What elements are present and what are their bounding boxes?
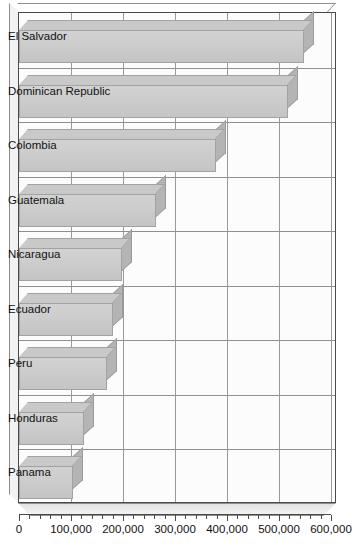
bar-side-face	[288, 66, 298, 108]
x-axis-tick-minor	[92, 515, 93, 519]
x-axis-tick-minor	[206, 515, 207, 519]
x-axis: 0100,000200,000300,000400,000500,000600,…	[0, 514, 357, 546]
x-axis-tick-minor	[40, 515, 41, 519]
x-axis-tick-major	[331, 515, 332, 521]
x-axis-tick-minor	[289, 515, 290, 519]
x-axis-tick-major	[19, 515, 20, 521]
bar-category-label: Honduras	[8, 402, 58, 435]
bar-side-face	[107, 338, 117, 380]
x-axis-tick-minor	[258, 515, 259, 519]
bars-layer: El SalvadorDominican RepublicColombiaGua…	[0, 0, 357, 546]
bar-category-label: Guatemala	[8, 184, 64, 217]
bar-category-label: Nicaragua	[8, 238, 60, 271]
x-axis-tick-major	[71, 515, 72, 521]
x-axis-tick-minor	[144, 515, 145, 519]
x-axis-tick-label: 400,000	[206, 523, 248, 535]
x-axis-tick-minor	[310, 515, 311, 519]
x-axis-tick-minor	[165, 515, 166, 519]
bar-top-face	[19, 347, 116, 357]
x-axis-tick-label: 100,000	[50, 523, 92, 535]
x-axis-tick-minor	[102, 515, 103, 519]
x-axis-tick-minor	[237, 515, 238, 519]
x-axis-tick-minor	[217, 515, 218, 519]
x-axis-tick-major	[123, 515, 124, 521]
bar-category-label: Dominican Republic	[8, 75, 110, 108]
x-axis-tick-minor	[269, 515, 270, 519]
x-axis-tick-minor	[185, 515, 186, 519]
bar-side-face	[84, 393, 94, 435]
bar-side-face	[122, 229, 132, 271]
bar-category-label: El Salvador	[8, 20, 67, 53]
x-axis-tick-label: 0	[16, 523, 22, 535]
x-axis-tick-minor	[196, 515, 197, 519]
bar-category-label: Ecuador	[8, 293, 51, 326]
x-axis-tick-major	[175, 515, 176, 521]
x-axis-tick-minor	[154, 515, 155, 519]
bar-category-label: Panama	[8, 456, 51, 489]
x-axis-tick-minor	[113, 515, 114, 519]
x-axis-tick-label: 300,000	[154, 523, 196, 535]
x-axis-tick-minor	[50, 515, 51, 519]
x-axis-tick-minor	[29, 515, 30, 519]
bar-side-face	[216, 120, 226, 162]
x-axis-tick-minor	[61, 515, 62, 519]
bar-category-label: Peru	[8, 347, 32, 380]
x-axis-tick-label: 500,000	[258, 523, 300, 535]
x-axis-tick-minor	[81, 515, 82, 519]
bar-side-face	[73, 447, 83, 489]
x-axis-tick-major	[227, 515, 228, 521]
x-axis-tick-minor	[321, 515, 322, 519]
bar-side-face	[113, 284, 123, 326]
x-axis-tick-minor	[300, 515, 301, 519]
bar-side-face	[304, 11, 314, 53]
x-axis-tick-label: 600,000	[310, 523, 352, 535]
bar-category-label: Colombia	[8, 129, 57, 162]
bar-side-face	[156, 175, 166, 217]
bar-chart: El SalvadorDominican RepublicColombiaGua…	[0, 0, 357, 546]
x-axis-tick-major	[279, 515, 280, 521]
x-axis-tick-minor	[248, 515, 249, 519]
x-axis-tick-minor	[133, 515, 134, 519]
x-axis-tick-label: 200,000	[102, 523, 144, 535]
